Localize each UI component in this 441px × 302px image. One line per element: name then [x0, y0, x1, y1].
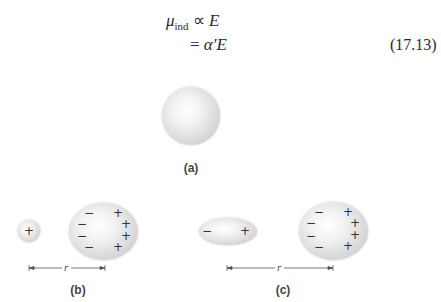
distance-label-c: r	[277, 261, 281, 273]
panel-label-b: (b)	[70, 283, 85, 297]
distance-label-b: r	[64, 261, 68, 273]
distance-arrows	[0, 0, 441, 302]
panel-label-c: (c)	[276, 283, 291, 297]
